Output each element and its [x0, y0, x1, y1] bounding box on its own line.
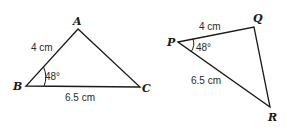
triangle-abc: A B C 4 cm 6.5 cm 48° [12, 15, 151, 103]
triangle-pqr-outline [178, 27, 270, 107]
vertex-label-b: B [12, 80, 22, 93]
side-label-pq: 4 cm [199, 21, 221, 32]
angle-p-arc [191, 39, 194, 52]
vertex-label-p: P [166, 36, 176, 49]
vertex-label-a: A [72, 15, 82, 28]
triangle-pqr: P Q R 4 cm 6.5 cm 48° [166, 12, 277, 124]
side-label-ab: 4 cm [31, 42, 53, 53]
triangle-abc-outline [26, 29, 140, 87]
side-label-bc: 6.5 cm [65, 92, 95, 103]
angle-label-b: 48° [45, 71, 60, 82]
vertex-label-q: Q [253, 12, 263, 25]
side-label-pr: 6.5 cm [191, 75, 221, 86]
vertex-label-r: R [267, 111, 277, 124]
vertex-label-c: C [142, 82, 151, 95]
triangles-diagram: A B C 4 cm 6.5 cm 48° P Q R 4 cm 6.5 cm … [0, 0, 286, 128]
angle-label-p: 48° [196, 42, 211, 53]
